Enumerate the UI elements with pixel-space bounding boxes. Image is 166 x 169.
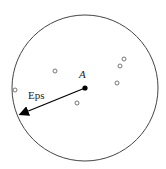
neighbor-point <box>13 88 17 92</box>
eps-label: Eps <box>28 89 45 101</box>
neighbor-point <box>122 57 126 61</box>
center-label: A <box>78 68 86 80</box>
center-point-a <box>82 85 87 90</box>
neighbor-point <box>53 69 57 73</box>
neighbor-point <box>115 81 119 85</box>
neighbor-point <box>75 101 79 105</box>
eps-neighborhood-diagram: A Eps <box>0 0 166 169</box>
neighbor-point <box>118 64 122 68</box>
